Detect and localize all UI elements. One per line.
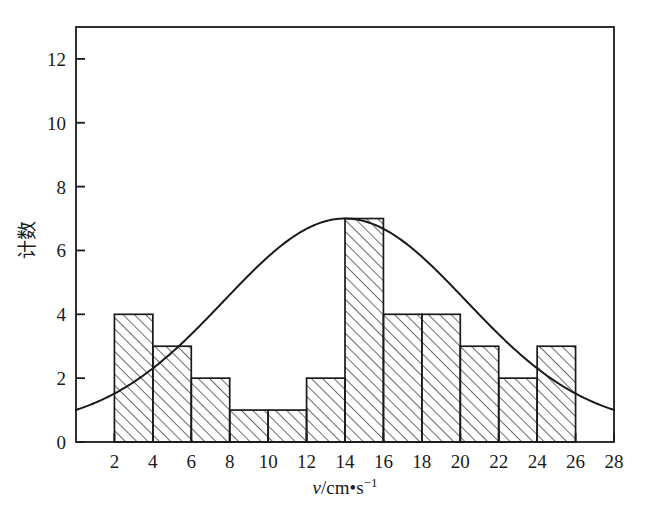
x-tick-label: 14 (336, 451, 356, 472)
bar-fill (537, 346, 575, 442)
x-tick-label: 20 (451, 451, 470, 472)
y-tick-label: 4 (57, 304, 67, 325)
x-axis-unit: /cm•s (321, 477, 364, 498)
y-tick-label: 6 (57, 240, 67, 261)
bar (114, 314, 152, 442)
x-tick-label: 12 (297, 451, 316, 472)
bar-fill (460, 346, 498, 442)
y-axis-title-text: 计数 (16, 221, 38, 259)
bar-fill (191, 378, 229, 442)
x-tick-label: 18 (412, 451, 431, 472)
bar (499, 378, 537, 442)
x-tick-label: 22 (489, 451, 508, 472)
bar (460, 346, 498, 442)
bar (268, 410, 306, 442)
x-tick-label: 4 (148, 451, 158, 472)
bar-fill (499, 378, 537, 442)
bar (191, 378, 229, 442)
bar (345, 219, 383, 442)
bar-fill (422, 314, 460, 442)
bar (422, 314, 460, 442)
x-tick-label: 16 (374, 451, 393, 472)
x-tick-label: 26 (566, 451, 585, 472)
y-tick-label: 8 (57, 177, 67, 198)
x-tick-label: 10 (259, 451, 278, 472)
bar (230, 410, 268, 442)
histogram-chart: 024681012 246810121416182022242628 计数 v/… (0, 0, 651, 518)
y-tick-label: 12 (47, 49, 66, 70)
y-tick-label: 2 (57, 368, 67, 389)
bar-fill (114, 314, 152, 442)
x-axis-exponent: −1 (364, 475, 378, 490)
bar (153, 346, 191, 442)
y-tick-label: 10 (47, 113, 66, 134)
bar-fill (230, 410, 268, 442)
bar (307, 378, 345, 442)
bar-fill (307, 378, 345, 442)
x-tick-label: 2 (110, 451, 120, 472)
x-tick-label: 24 (528, 451, 548, 472)
x-tick-label: 28 (605, 451, 624, 472)
y-axis-title: 计数 (16, 221, 38, 259)
bar-fill (268, 410, 306, 442)
bar-fill (345, 219, 383, 442)
bar-fill (153, 346, 191, 442)
x-tick-label: 6 (187, 451, 197, 472)
y-tick-label: 0 (57, 432, 67, 453)
chart-canvas: 024681012 246810121416182022242628 计数 v/… (0, 0, 651, 518)
bar (383, 314, 421, 442)
bar (537, 346, 575, 442)
x-tick-label: 8 (225, 451, 235, 472)
bar-fill (383, 314, 421, 442)
